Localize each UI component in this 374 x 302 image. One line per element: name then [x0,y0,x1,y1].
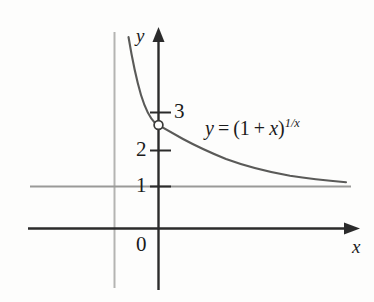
y-axis-label: y [136,26,144,45]
origin-label-0: 0 [136,234,147,255]
equation-equals: = [218,117,229,139]
equation-exponent: 1/x [285,116,300,130]
equation-one: 1 [240,117,250,139]
plot-area [0,0,374,302]
curve-path [129,37,347,182]
x-axis-arrowhead [344,223,360,235]
equation-plus: + [254,117,265,139]
y-tick-label-1: 1 [136,175,147,196]
equation-close-paren: ) [278,117,285,139]
equation-lhs: y [205,117,214,139]
y-tick-label-3: 3 [174,101,185,122]
y-tick-label-2: 2 [136,139,147,160]
y-axis-arrowhead [153,27,165,42]
figure-canvas: 3 2 1 0 y x y=(1+x)1/x [0,0,374,302]
equation-variable-x: x [269,117,278,139]
hole-marker-open-circle [154,121,163,130]
equation-annotation: y=(1+x)1/x [205,118,300,138]
x-axis-label: x [352,237,360,256]
equation-open-paren: ( [233,117,240,139]
